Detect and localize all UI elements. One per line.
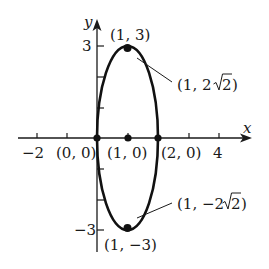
svg-text:2: 2: [222, 76, 232, 94]
point-origin: [93, 134, 100, 141]
label-pt-origin: (0, 0): [56, 144, 96, 162]
label-pt-top: (1, 3): [110, 26, 150, 44]
label-pt-right: (2, 0): [161, 144, 201, 162]
svg-text:2: 2: [231, 195, 241, 213]
annotation-lower: (1, −2 2 ): [177, 193, 247, 213]
leader-upper: [137, 58, 172, 82]
svg-text:(1, −2: (1, −2: [177, 195, 224, 213]
tick-label-neg3: −3: [74, 221, 96, 239]
svg-text:(1, 2: (1, 2: [177, 76, 211, 94]
x-axis: [18, 133, 252, 143]
annotation-upper: (1, 2 2 ): [177, 74, 238, 94]
point-center: [124, 134, 131, 141]
point-bottom: [124, 224, 132, 232]
point-top: [124, 44, 132, 52]
tick-label-3: 3: [82, 37, 92, 55]
tick-label-neg2: −2: [22, 144, 44, 162]
x-axis-label: x: [243, 119, 252, 137]
point-right: [154, 134, 161, 141]
label-pt-bottom: (1, −3): [104, 236, 157, 254]
svg-text:): ): [241, 195, 247, 213]
svg-text:): ): [232, 76, 238, 94]
y-axis-label: y: [83, 13, 93, 31]
leader-lower: [137, 203, 172, 218]
tick-label-4: 4: [213, 144, 223, 162]
ellipse-plot: y x −2 4 3 −3 (1, 3) (0, 0) (1, 0) (2, 0…: [0, 0, 269, 269]
label-pt-center: (1, 0): [107, 144, 147, 162]
